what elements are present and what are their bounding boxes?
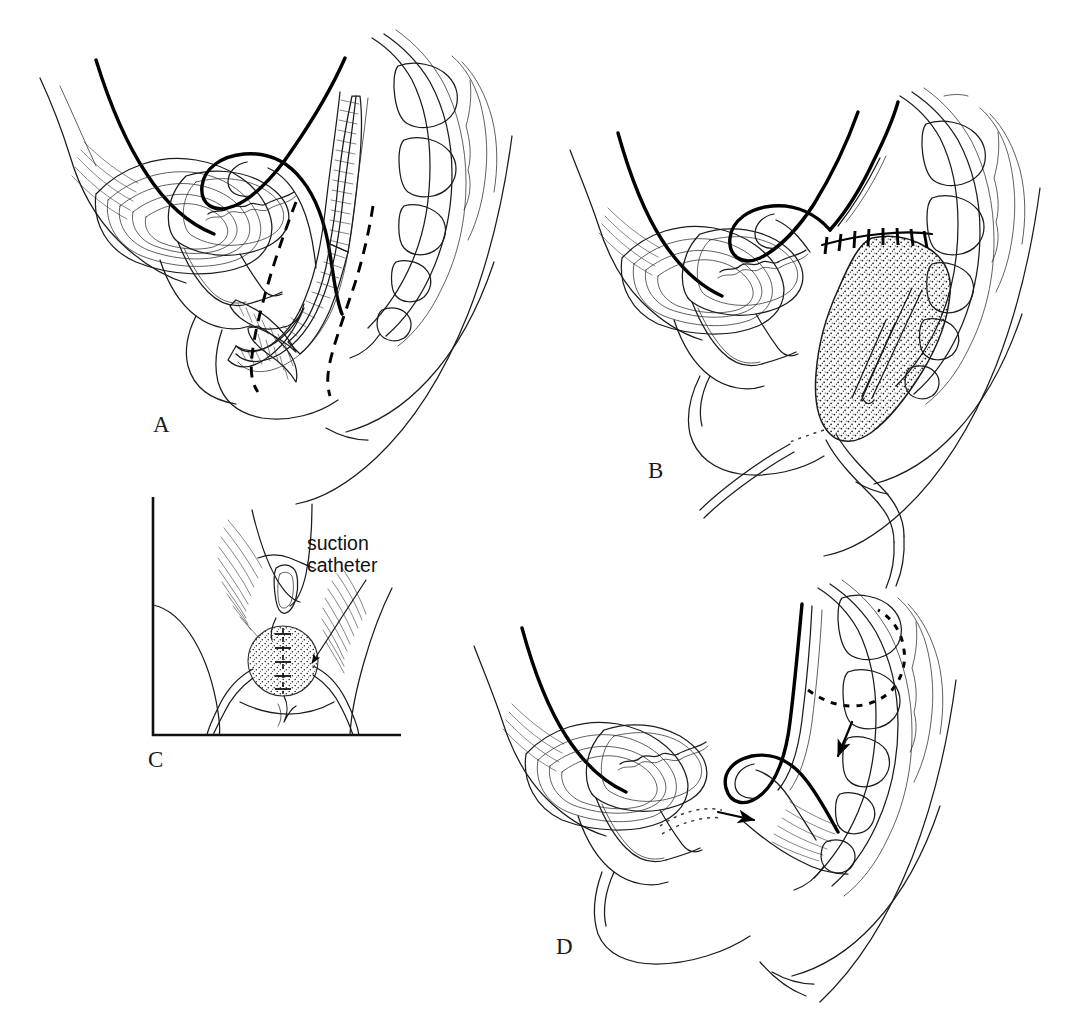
- panel-a-rectosigmoid-inner: [268, 168, 316, 268]
- panel-d-rectum-bold-outline: [725, 604, 838, 832]
- panel-d-thigh-crease: [792, 806, 940, 976]
- panel-d-perineal-junction: [772, 972, 814, 984]
- panel-d-uterus-cavity: [601, 733, 701, 802]
- panel-c-catheter-right-wall-2: [313, 675, 353, 735]
- panel-b-catheter-exit-distal-1: [896, 536, 904, 586]
- panel-d-posterior-spinal-elements: [898, 598, 933, 782]
- panel-a-perineal-junction: [326, 428, 368, 440]
- panel-b-vaginal-floor: [762, 352, 796, 364]
- panel-a-gluteal-contour: [296, 136, 512, 504]
- panel-c-right-thigh: [350, 588, 392, 735]
- panel-b-perineal-body-contour: [674, 320, 764, 389]
- figure-lineart: [0, 0, 1090, 1019]
- panel-d-anterior-abdominal-wall: [522, 628, 626, 792]
- panel-c-catheter-right-wall-1: [313, 666, 359, 735]
- panel-d-illustration: [474, 580, 956, 1002]
- panel-a-posterior-spinal-elements: [452, 56, 487, 240]
- panel-b-rectum-superior-limb: [830, 102, 898, 230]
- panel-c-callout-leader-arrow: [312, 580, 366, 663]
- panel-a-bladder-inner-2: [119, 184, 250, 259]
- panel-d-arrow-anterior: [718, 812, 754, 820]
- panel-c-left-shading: [218, 520, 262, 636]
- panel-a-posterior-spinal-elements-2: [462, 62, 497, 192]
- panel-b-tubing-left-wall-a: [700, 444, 790, 510]
- panel-b-perineum-lower: [688, 376, 824, 475]
- panel-a-rectus-striations: [72, 142, 138, 219]
- panel-b-posterior-spinal-elements: [980, 108, 1015, 292]
- panel-c-anal-verge: [284, 696, 296, 722]
- surgical-figure: A B C D suctioncatheter: [0, 0, 1090, 1019]
- panel-label-d: D: [556, 935, 573, 958]
- panel-a-ligament-undulation: [464, 80, 471, 210]
- panel-a-anterior-abdominal-wall: [96, 60, 214, 234]
- panel-b-presacral-fascia: [924, 88, 994, 404]
- panel-b-sacral-promontory-detail: [944, 95, 968, 97]
- panel-d-arrow-posteroinferior: [838, 722, 852, 756]
- panel-b-rectosigmoid-bold-outline: [730, 112, 858, 261]
- callout-line-1: suction: [307, 532, 369, 554]
- panel-d-uterus-body: [586, 725, 707, 811]
- panel-d-perineal-body-contour: [578, 816, 668, 885]
- panel-b-catheter-exit-distal-2: [886, 542, 894, 588]
- panel-a-sacral-anterior-border: [368, 38, 430, 328]
- panel-a-presacral-fascia: [396, 30, 466, 346]
- panel-a-illustration: [40, 30, 512, 504]
- panel-d-rectum-posterior-wall: [778, 606, 812, 790]
- panel-c-anal-detail: [278, 704, 281, 726]
- panel-d-rectum-serosa: [790, 610, 822, 790]
- panel-a-perineal-body-contour: [160, 260, 250, 329]
- panel-a-vaginal-anterior-wall-inner: [184, 248, 246, 303]
- panel-a-perineum-lower: [216, 330, 338, 419]
- panel-b-anterior-abdominal-wall: [618, 133, 722, 296]
- callout-suction-catheter: suctioncatheter: [307, 533, 377, 577]
- panel-c-introitus-inner: [278, 572, 294, 608]
- panel-d-cervix: [660, 810, 702, 852]
- panel-label-b: B: [648, 459, 664, 482]
- panel-b-uterus-cavity: [697, 237, 797, 306]
- panel-a-bladder-inner-4: [145, 204, 227, 249]
- panel-c-left-labium-outline: [252, 510, 300, 602]
- panel-a-coccyx-tip: [350, 334, 380, 358]
- panel-c-right-shading: [322, 568, 366, 673]
- panel-d-posterior-spinal-elements-2: [908, 604, 943, 734]
- callout-line-2: catheter: [307, 554, 377, 576]
- panel-b-tubing-dotted-segment: [790, 430, 824, 442]
- panel-label-a: A: [153, 413, 170, 436]
- panel-d-perineum-lower: [595, 872, 750, 964]
- panel-b-rectosigmoid-inner: [776, 220, 810, 252]
- panel-d-levator-striations: [772, 802, 838, 861]
- panel-b-posterior-spinal-elements-2: [990, 114, 1025, 244]
- panel-b-sigmoid-fold: [755, 214, 777, 248]
- panel-b-tubing-left-wall-b: [704, 452, 794, 518]
- panel-b-cervix: [756, 314, 798, 356]
- panel-b-ligament-undulation: [992, 132, 999, 262]
- panel-d-ligament-undulation: [910, 622, 917, 752]
- panel-d-vaginal-floor: [666, 848, 700, 860]
- panel-d-pelvic-floor-outline: [744, 822, 848, 874]
- panel-a-fascia-line: [60, 86, 96, 166]
- panel-b-illustration: [570, 88, 1040, 588]
- panel-d-perineal-contour: [604, 872, 614, 926]
- panel-d-thigh-lower-contour: [760, 962, 806, 996]
- panel-d-arrow-anterior-trajectory-2: [662, 818, 722, 834]
- panel-d-sacral-anterior-border: [814, 588, 876, 878]
- panel-b-rectum-superior-limb-inner-2: [846, 156, 886, 222]
- panel-b-perineal-contour: [700, 376, 710, 426]
- panel-d-rectal-fold: [735, 764, 757, 798]
- panel-c-left-thigh: [153, 605, 220, 735]
- panel-label-c: C: [148, 748, 164, 771]
- panel-b-catheter-exit-wall-1: [836, 434, 904, 536]
